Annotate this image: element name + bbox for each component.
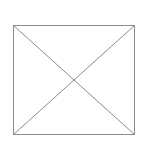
- placeholder-image: [0, 0, 161, 163]
